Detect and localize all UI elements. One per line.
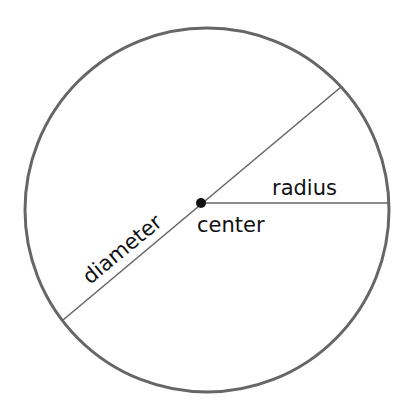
radius-label: radius	[272, 176, 337, 200]
center-dot	[196, 198, 206, 208]
center-label: center	[197, 213, 265, 237]
diameter-label: diameter	[78, 210, 167, 289]
circle-outline	[25, 28, 389, 392]
circle-diagram: radius center diameter	[0, 0, 412, 415]
